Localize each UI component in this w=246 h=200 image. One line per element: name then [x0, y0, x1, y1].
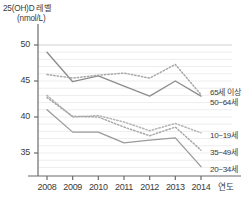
- series-label-2: 10~19세: [210, 129, 238, 140]
- gridlines-group: [38, 45, 232, 167]
- series-label-4: 20~34세: [210, 163, 238, 174]
- x-tick-label-2014: 2014: [184, 182, 218, 192]
- series-label-1: 50~64세: [210, 96, 238, 107]
- y-tick-label-35: 35: [10, 147, 30, 157]
- y-tick-label-40: 40: [10, 111, 30, 121]
- series-label-3: 35~49세: [210, 146, 238, 157]
- y-tick-label-50: 50: [10, 39, 30, 49]
- x-axis-label: 연도: [218, 180, 234, 192]
- chart-container: 25(OH)D 레벨 (nmol/L) 50454035 20082009201…: [0, 0, 246, 200]
- y-tick-label-45: 45: [10, 75, 30, 85]
